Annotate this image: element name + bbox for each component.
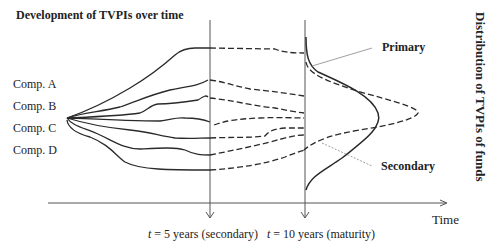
- t5-marker-line: [206, 20, 214, 218]
- primary-distribution-curve: [306, 37, 379, 190]
- t10-label: t = 10 years (maturity): [267, 227, 375, 242]
- tvpi-paths-dashed: [210, 48, 305, 170]
- primary-label: Primary: [382, 40, 425, 55]
- t5-text: = 5 years (secondary): [151, 227, 258, 241]
- secondary-distribution-curve: [304, 62, 418, 150]
- primary-leader-line: [312, 48, 372, 66]
- t5-label: t = 5 years (secondary): [148, 227, 258, 242]
- tvpi-diagram: [0, 0, 493, 248]
- time-axis-label: Time: [432, 212, 459, 228]
- time-axis: [48, 200, 447, 206]
- distribution-axis-title: Distribution of TVPIs of funds: [472, 12, 488, 212]
- secondary-label: Secondary: [381, 159, 435, 174]
- tvpi-paths-solid: [67, 48, 210, 170]
- t10-marker-line: [301, 20, 309, 218]
- t10-text: = 10 years (maturity): [270, 227, 375, 241]
